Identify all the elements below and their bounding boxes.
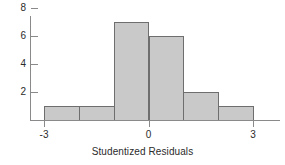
plot-area: 2468 -303 Studentized Residuals bbox=[0, 0, 285, 165]
y-tick-mark bbox=[31, 92, 38, 93]
histogram-bar bbox=[183, 92, 219, 120]
histogram-bar bbox=[218, 106, 254, 120]
y-tick-label-wrap: 6 bbox=[0, 31, 26, 41]
y-tick-label-wrap: 4 bbox=[0, 59, 26, 69]
histogram-bar bbox=[44, 106, 80, 120]
histogram-bar bbox=[149, 36, 185, 120]
histogram-chart: 2468 -303 Studentized Residuals bbox=[0, 0, 285, 165]
y-tick-mark bbox=[31, 64, 38, 65]
y-tick-label-wrap: 8 bbox=[0, 3, 26, 13]
y-tick-label: 4 bbox=[4, 59, 26, 69]
x-tick-label-wrap: -3 bbox=[29, 129, 59, 141]
x-tick-label-wrap: 3 bbox=[238, 129, 268, 141]
y-tick-mark bbox=[31, 8, 38, 9]
x-axis-line bbox=[30, 120, 280, 121]
x-tick-mark bbox=[149, 121, 150, 127]
y-tick-label: 2 bbox=[4, 87, 26, 97]
histogram-bar bbox=[79, 106, 115, 120]
x-tick-label: -3 bbox=[29, 129, 59, 141]
x-tick-label: 0 bbox=[134, 129, 164, 141]
x-tick-mark bbox=[253, 121, 254, 127]
x-tick-mark bbox=[44, 121, 45, 127]
x-tick-label-wrap: 0 bbox=[134, 129, 164, 141]
histogram-bar bbox=[114, 22, 150, 120]
y-tick-label: 8 bbox=[4, 3, 26, 13]
y-tick-label: 6 bbox=[4, 31, 26, 41]
y-tick-label-wrap: 2 bbox=[0, 87, 26, 97]
y-tick-mark bbox=[31, 36, 38, 37]
x-axis-title: Studentized Residuals bbox=[0, 146, 285, 157]
x-tick-label: 3 bbox=[238, 129, 268, 141]
y-axis-line bbox=[30, 16, 31, 121]
